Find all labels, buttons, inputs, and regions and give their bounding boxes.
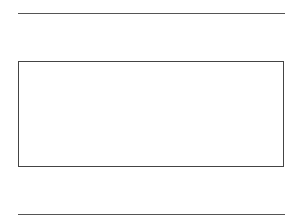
bottom-rule xyxy=(18,214,285,215)
bar-grid xyxy=(18,61,284,167)
top-rule xyxy=(18,13,285,14)
